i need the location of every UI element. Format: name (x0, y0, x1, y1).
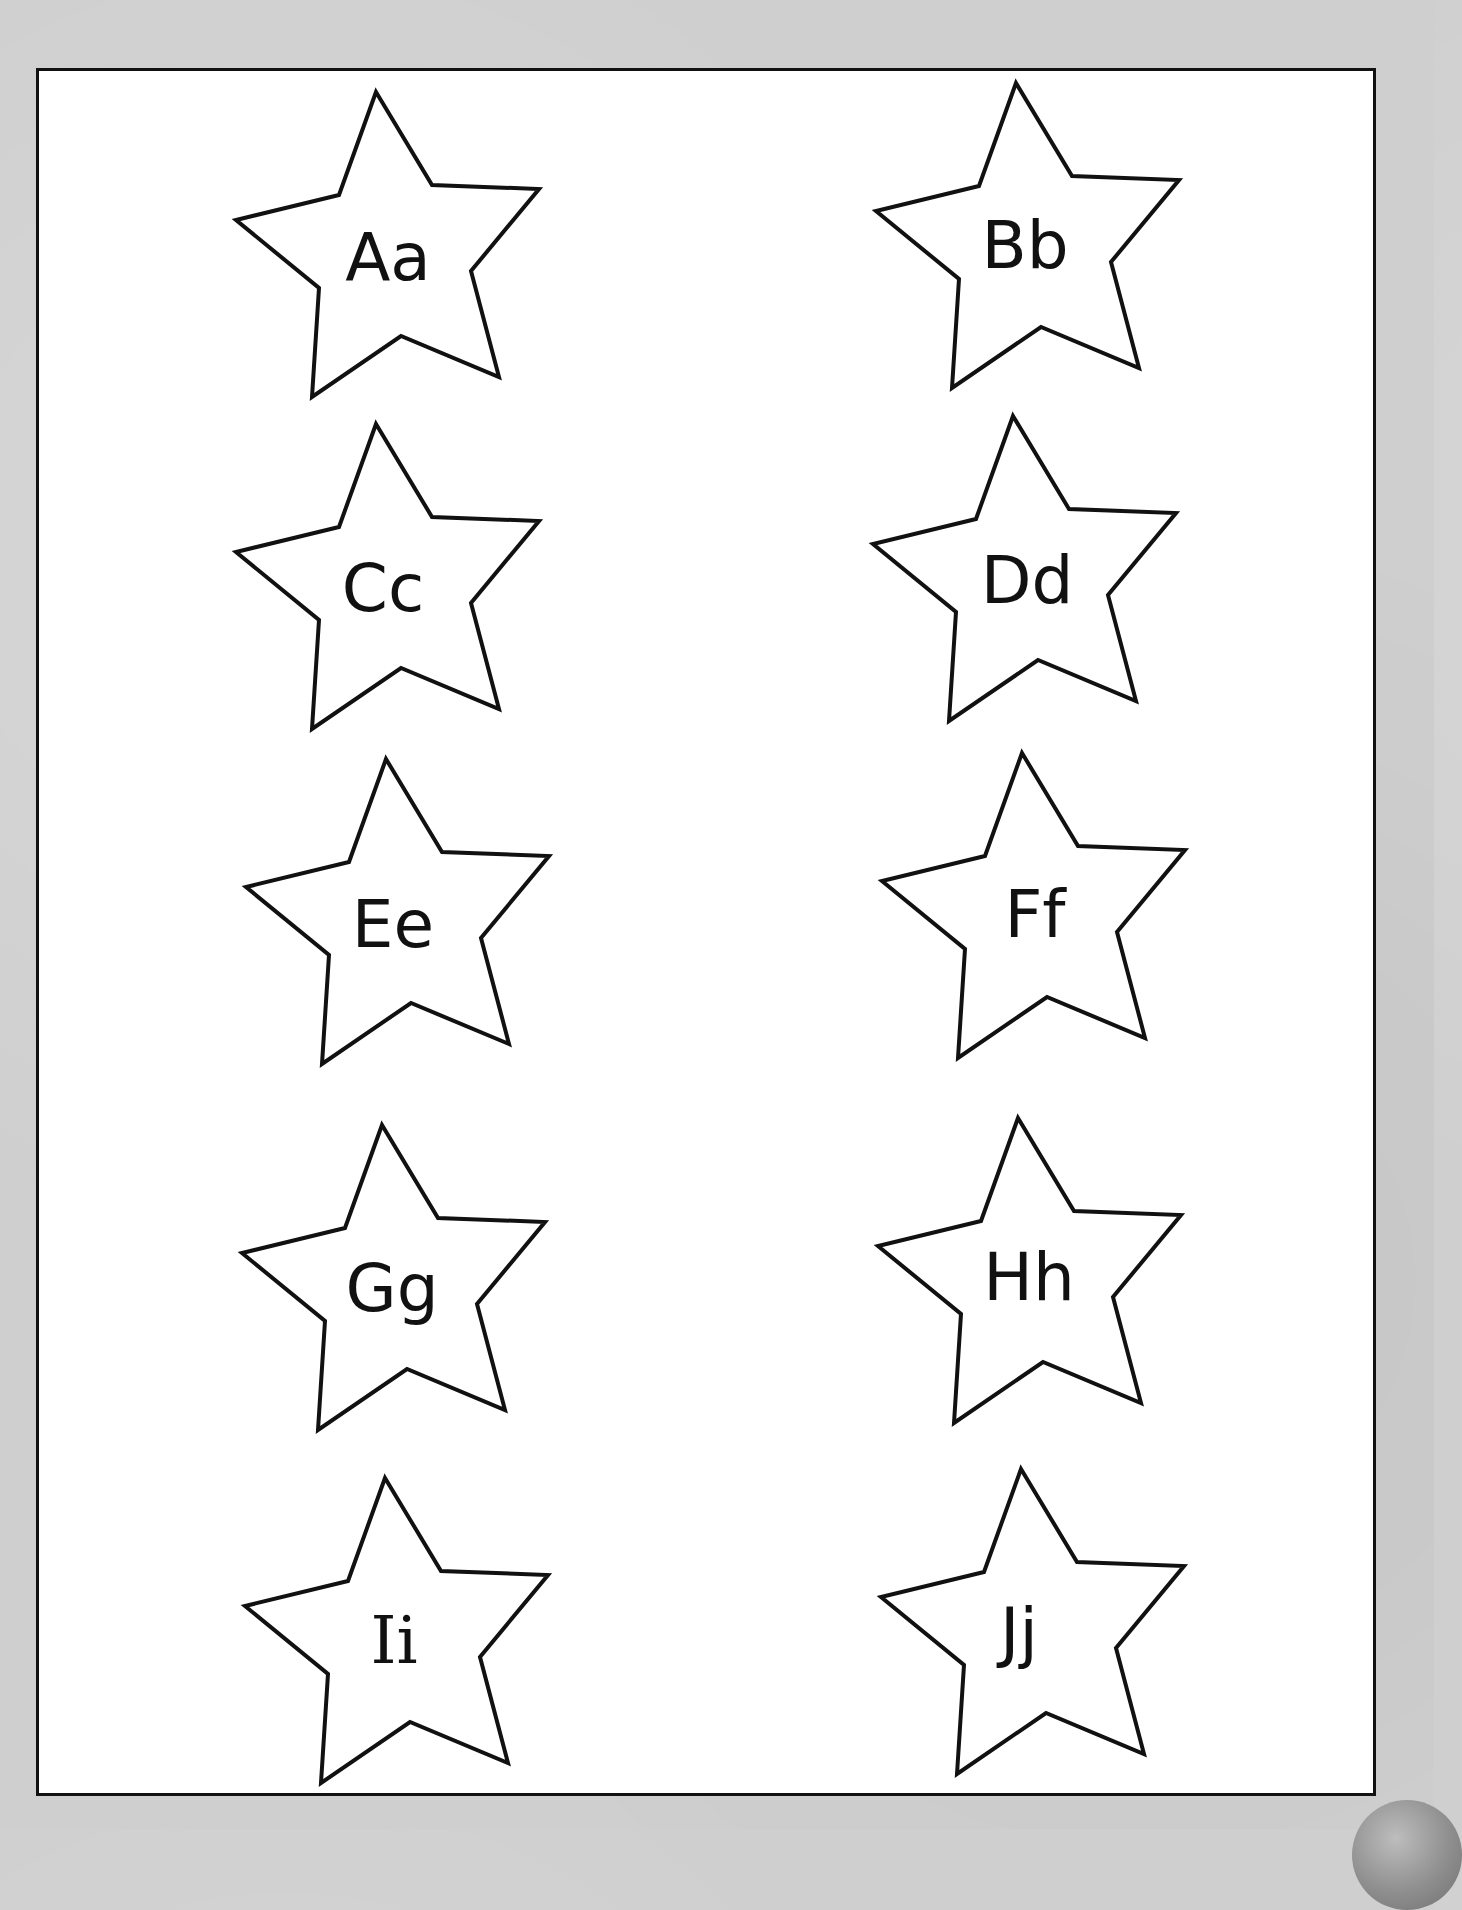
star-label: Hh (983, 1239, 1074, 1316)
star-card-dd: Dd (873, 416, 1176, 721)
corner-badge-icon (1352, 1800, 1462, 1910)
star-label: Jj (996, 1594, 1038, 1671)
star-label: Ff (1004, 876, 1067, 953)
star-card-aa: Aa (236, 92, 539, 397)
star-label: Dd (981, 542, 1074, 619)
star-card-hh: Hh (878, 1118, 1181, 1423)
star-card-jj: Jj (881, 1469, 1184, 1774)
star-card-ff: Ff (882, 753, 1185, 1058)
star-label: Bb (981, 207, 1068, 284)
star-card-bb: Bb (876, 83, 1179, 388)
star-card-cc: Cc (236, 424, 539, 729)
star-label: Gg (345, 1250, 438, 1327)
star-card-gg: Gg (242, 1125, 545, 1430)
star-card-ii: Ii (245, 1478, 548, 1783)
star-label: Aa (345, 219, 431, 296)
star-label: Cc (342, 550, 424, 627)
star-label: Ii (370, 1602, 417, 1679)
star-card-ee: Ee (246, 759, 549, 1064)
star-label: Ee (352, 886, 434, 963)
